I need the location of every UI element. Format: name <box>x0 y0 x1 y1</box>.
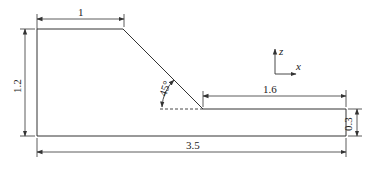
dimension-label-total-length: 3.5 <box>186 139 200 151</box>
dimension-label-step-length: 1.6 <box>263 83 277 95</box>
section-outline <box>37 29 346 136</box>
dimension-label-step-height: 0.3 <box>342 117 354 131</box>
dimension-step-height: 0.3 <box>342 109 362 136</box>
dimension-top-width: 1 <box>37 6 124 29</box>
angle-label: 45° <box>156 79 172 97</box>
z-axis-label: z <box>278 45 284 57</box>
dimension-label-top: 1 <box>78 6 84 18</box>
geometry-diagram: 45° 1 1.2 1.6 0.3 3.5 z x <box>0 0 373 169</box>
dimension-step-length: 1.6 <box>203 83 346 107</box>
dimension-label-left: 1.2 <box>11 79 23 93</box>
x-axis-label: x <box>295 60 301 72</box>
dimension-total-length: 3.5 <box>37 138 346 157</box>
dimension-total-height: 1.2 <box>11 29 35 136</box>
coordinate-axes: z x <box>275 45 301 74</box>
